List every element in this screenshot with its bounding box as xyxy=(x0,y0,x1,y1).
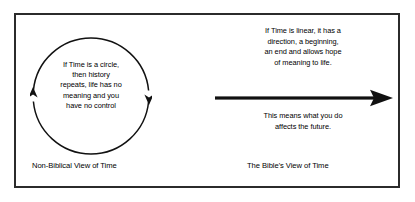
circle-inner-text: If Time is a circle, then history repeat… xyxy=(38,60,144,111)
panel-non-biblical-view: If Time is a circle, then history repeat… xyxy=(16,15,207,186)
linear-time-arrow-icon xyxy=(215,88,395,108)
diagram-frame: If Time is a circle, then history repeat… xyxy=(14,13,400,188)
caption-non-biblical-view: Non-Biblical View of Time xyxy=(32,161,117,171)
panel-biblical-view: If Time is linear, it has a direction, a… xyxy=(207,15,398,186)
linear-text-below-arrow: This means what you do affects the futur… xyxy=(225,111,381,132)
linear-text-above-arrow: If Time is linear, it has a direction, a… xyxy=(223,26,383,68)
caption-biblical-view: The Bible's View of Time xyxy=(247,161,329,171)
